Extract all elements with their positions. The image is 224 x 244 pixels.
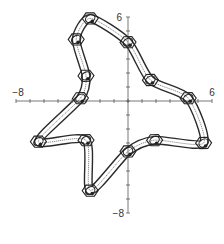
x-min-tick-label: −8	[12, 87, 24, 98]
plot-area: −8 6 6 −8	[0, 0, 224, 244]
y-min-tick-label: −8	[113, 208, 125, 219]
axes: −8 6 6 −8	[12, 12, 215, 219]
loop-nodes	[30, 13, 211, 196]
y-max-tick-label: 6	[116, 12, 122, 23]
x-max-tick-label: 6	[209, 87, 215, 98]
